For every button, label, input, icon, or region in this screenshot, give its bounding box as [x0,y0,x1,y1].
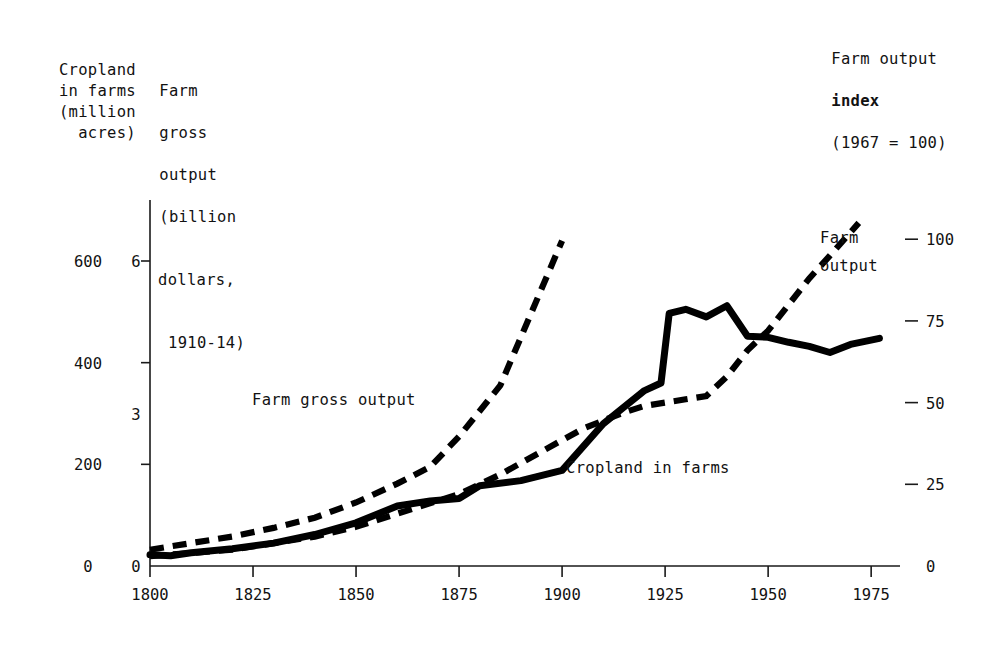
axes-group [141,200,918,577]
series-group [150,223,879,556]
series-annotation-farm-gross-output: Farm gross output [252,391,416,409]
y-tick-label-index: 100 [926,231,954,249]
y-tick-label-index: 75 [926,313,945,331]
y-tick-label-gross: 6 [131,253,140,271]
x-tick-label: 1900 [543,586,580,604]
x-tick-label: 1925 [646,586,683,604]
y-tick-label-index: 0 [926,558,935,576]
x-tick-label: 1950 [749,586,786,604]
y-tick-label-gross: 0 [131,558,140,576]
y-tick-label-index: 25 [926,476,945,494]
y-tick-label-cropland: 0 [83,558,92,576]
x-tick-label: 1875 [440,586,477,604]
series-annotation-farm-output: Farm [820,229,859,247]
x-tick-label: 1825 [234,586,271,604]
x-tick-label: 1800 [131,586,168,604]
y-tick-label-cropland: 400 [74,355,102,373]
series-annotation-farm-output: output [820,257,878,275]
annotation-group: Cropland in farmsFarm gross outputFarmou… [252,229,878,477]
y-tick-label-gross: 3 [131,406,140,424]
y-tick-label-index: 50 [926,395,945,413]
series-line-farm-output [150,223,859,556]
y-tick-label-cropland: 200 [74,456,102,474]
series-line-cropland-in-farms [150,306,879,556]
x-tick-label: 1850 [337,586,374,604]
series-annotation-cropland-in-farms: Cropland in farms [566,459,730,477]
y-tick-label-cropland: 600 [74,253,102,271]
chart-canvas: 1800182518501875190019251950197502004006… [0,0,1008,648]
x-tick-label: 1975 [852,586,889,604]
